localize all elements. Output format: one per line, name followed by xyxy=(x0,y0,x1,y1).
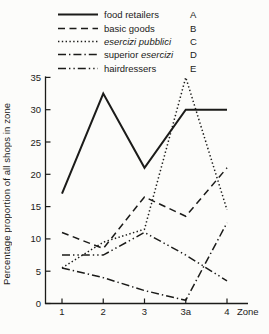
y-tick-label: 15 xyxy=(30,201,41,212)
x-tick-label: 2 xyxy=(101,306,106,317)
y-tick-label: 0 xyxy=(36,298,41,309)
series-A-line xyxy=(62,94,227,194)
y-tick-label: 5 xyxy=(36,266,41,277)
y-tick-label: 30 xyxy=(30,104,41,115)
shop-zones-line-chart: Percentage proportion of all shops in zo… xyxy=(0,0,269,334)
y-tick-label: 10 xyxy=(30,233,41,244)
series-D-line xyxy=(62,223,227,301)
x-tick-label: 3 xyxy=(142,306,147,317)
line-chart-canvas: 051015202530351233a4Zone xyxy=(0,0,269,334)
y-tick-label: 25 xyxy=(30,137,41,148)
x-axis-title: Zone xyxy=(237,306,259,317)
y-tick-label: 35 xyxy=(30,72,41,83)
y-tick-label: 20 xyxy=(30,169,41,180)
series-E-line xyxy=(62,232,227,280)
series-C-line xyxy=(62,77,227,268)
series-B-line xyxy=(62,168,227,249)
x-tick-label: 1 xyxy=(59,306,64,317)
x-tick-label: 3a xyxy=(180,306,191,317)
x-tick-label: 4 xyxy=(224,306,229,317)
